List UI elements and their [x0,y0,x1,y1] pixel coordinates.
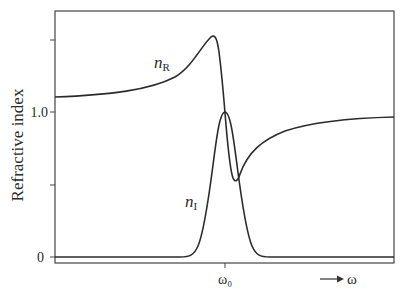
x-tick-label-omega0: ω₀ [218,272,232,287]
arrow-right-icon [337,276,344,283]
plot-frame [55,11,394,263]
x-axis-label: ω [347,271,357,287]
refractive-index-chart: 0 1.0 Refractive index ω₀ ω nR nI [0,0,404,293]
label-n-real: nR [154,53,171,73]
y-tick-label-1: 1.0 [31,105,49,120]
series-n-real [55,36,394,181]
x-axis-arrow [320,276,344,283]
y-axis-title: Refractive index [8,88,27,201]
series-n-imaginary [55,112,394,257]
y-axis-ticks [50,40,55,257]
label-n-imaginary: nI [185,192,198,212]
y-tick-label-0: 0 [37,250,44,265]
